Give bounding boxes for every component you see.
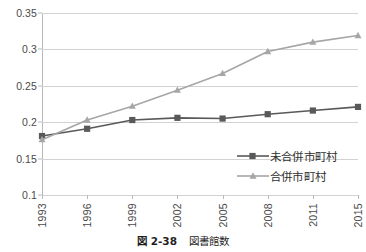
x-tick-label: 2005 bbox=[217, 203, 229, 228]
x-tick-mark bbox=[42, 195, 43, 199]
x-tick-mark bbox=[313, 195, 314, 199]
figure-container: 0.350.30.250.20.150.1 199319961999200220… bbox=[0, 0, 366, 252]
x-tick-label: 2011 bbox=[307, 203, 319, 227]
legend-triangle-marker-icon bbox=[236, 169, 270, 183]
x-tick-mark bbox=[132, 195, 133, 199]
y-tick-label: 0.25 bbox=[16, 80, 42, 92]
y-tick-label: 0.1 bbox=[22, 189, 42, 201]
data-point-square-marker bbox=[310, 107, 316, 113]
y-tick-label: 0.2 bbox=[22, 116, 42, 128]
x-tick-label: 1993 bbox=[36, 203, 48, 228]
data-point-square-marker bbox=[174, 115, 180, 121]
data-point-square-marker bbox=[219, 115, 225, 121]
data-point-square-marker bbox=[265, 111, 271, 117]
legend-item[interactable]: 合併市町村 bbox=[236, 166, 362, 186]
x-tick-mark bbox=[223, 195, 224, 199]
gridline bbox=[42, 195, 358, 196]
data-point-square-marker bbox=[129, 117, 135, 123]
x-tick-mark bbox=[358, 195, 359, 199]
caption-figure-number: 図 2-38 bbox=[137, 235, 177, 247]
legend-square-marker-icon bbox=[236, 149, 270, 163]
legend-label: 合併市町村 bbox=[270, 168, 326, 184]
legend-label: 未合併市町村 bbox=[270, 148, 337, 164]
y-tick-label: 0.3 bbox=[22, 43, 42, 55]
caption-figure-title: 図書館数 bbox=[189, 235, 229, 247]
series-line bbox=[42, 36, 358, 140]
x-tick-mark bbox=[268, 195, 269, 199]
x-tick-label: 2015 bbox=[352, 203, 364, 228]
data-point-square-marker bbox=[84, 126, 90, 132]
data-point-square-marker bbox=[355, 104, 361, 110]
x-tick-mark bbox=[87, 195, 88, 199]
legend: 未合併市町村合併市町村 bbox=[236, 146, 362, 186]
x-tick-label: 1999 bbox=[126, 203, 138, 228]
data-point-triangle-marker bbox=[355, 32, 362, 38]
y-tick-label: 0.35 bbox=[16, 7, 42, 19]
y-tick-label: 0.15 bbox=[16, 153, 42, 165]
x-tick-label: 1996 bbox=[81, 203, 93, 228]
x-tick-mark bbox=[177, 195, 178, 199]
legend-item[interactable]: 未合併市町村 bbox=[236, 146, 362, 166]
figure-caption: 図 2-38図書館数 bbox=[0, 233, 366, 248]
x-tick-label: 2002 bbox=[171, 203, 183, 228]
x-tick-label: 2008 bbox=[262, 203, 274, 228]
